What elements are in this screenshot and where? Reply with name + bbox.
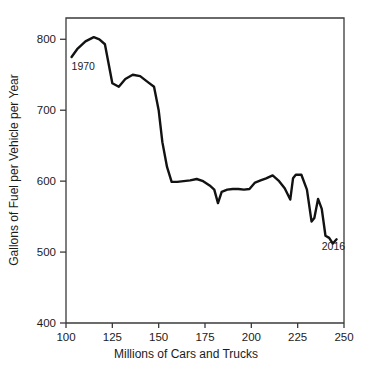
chart-canvas: 100125150175200225250 400500600700800 19… (0, 0, 372, 379)
y-axis-ticks (60, 39, 66, 323)
x-tick-label: 250 (334, 331, 353, 343)
data-series-line (72, 37, 337, 243)
y-tick-label: 800 (37, 33, 56, 45)
x-tick-label: 175 (195, 331, 214, 343)
y-tick-label: 500 (37, 246, 56, 258)
y-tick-label: 700 (37, 104, 56, 116)
x-tick-label: 150 (149, 331, 168, 343)
fuel-consumption-chart: 100125150175200225250 400500600700800 19… (0, 0, 372, 379)
x-tick-label: 225 (288, 331, 307, 343)
x-tick-label: 125 (103, 331, 122, 343)
series-annotation: 1970 (72, 60, 96, 72)
y-axis-title: Gallons of Fuel per Vehicle per Year (7, 74, 21, 265)
y-tick-label: 400 (37, 317, 56, 329)
y-tick-label: 600 (37, 175, 56, 187)
x-axis-title: Millions of Cars and Trucks (114, 347, 258, 361)
x-axis-tick-labels: 100125150175200225250 (56, 331, 353, 343)
data-series-layer (72, 37, 337, 243)
x-tick-label: 100 (56, 331, 75, 343)
annotation-layer: 19702016 (72, 60, 346, 252)
y-axis-tick-labels: 400500600700800 (37, 33, 56, 329)
x-tick-label: 200 (242, 331, 261, 343)
x-axis-ticks (66, 323, 344, 328)
series-annotation: 2016 (322, 240, 346, 252)
